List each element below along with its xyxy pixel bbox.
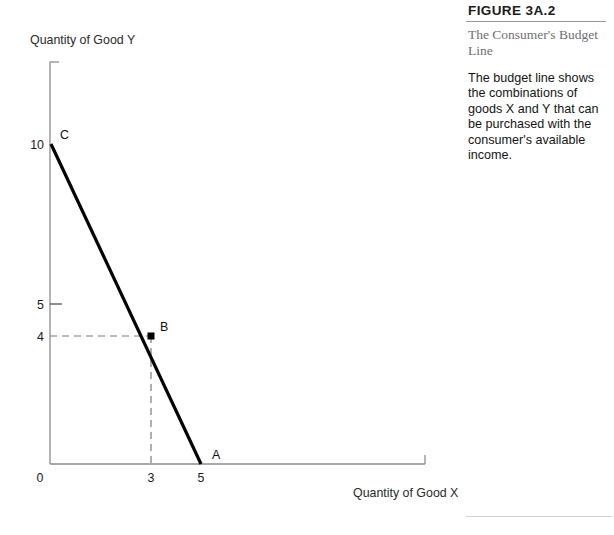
- figure-subtitle: The Consumer's Budget Line: [468, 27, 608, 58]
- figure-title-divider: [466, 21, 606, 22]
- budget-line-plot: 10 5 4 0 3 5 C B A: [0, 0, 466, 535]
- x-tick-label-3: 3: [148, 471, 155, 485]
- figure-side-panel: FIGURE 3A.2 The Consumer's Budget Line T…: [466, 0, 614, 535]
- y-tick-label-5: 5: [37, 298, 44, 312]
- figure-chart-panel: Quantity of Good Y Quantity of Good X 10…: [0, 0, 466, 535]
- budget-line: [51, 144, 201, 464]
- figure-number: FIGURE 3A.2: [468, 3, 556, 18]
- point-b-marker: [148, 333, 155, 340]
- x-tick-label-0: 0: [37, 471, 44, 485]
- y-tick-label-4: 4: [37, 330, 44, 344]
- point-label-b: B: [160, 320, 168, 334]
- y-tick-label-10: 10: [30, 138, 44, 152]
- point-label-c: C: [60, 128, 69, 142]
- figure-caption: The budget line shows the combinations o…: [468, 71, 604, 163]
- x-tick-label-5: 5: [198, 471, 205, 485]
- point-label-a: A: [212, 448, 221, 462]
- page-bottom-divider: [466, 516, 612, 517]
